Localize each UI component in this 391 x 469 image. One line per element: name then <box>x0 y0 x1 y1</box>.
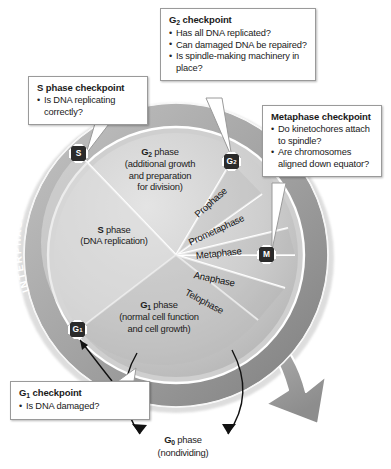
callout-g1-checkpoint: G1 checkpoint Is DNA damaged? <box>10 381 150 420</box>
phase-label-s: S phase (DNA replication) <box>58 224 170 247</box>
cell-cycle-figure: INTERPHASE CELL DIVISION Prophase Promet… <box>0 0 391 469</box>
badge-label: G1 <box>68 320 87 339</box>
phase-label-g2: G2 phase (additional growth and preparat… <box>108 146 212 193</box>
callout-item: Can damaged DNA be repaired? <box>169 40 308 52</box>
callout-list: Has all DNA replicated? Can damaged DNA … <box>169 28 308 74</box>
callout-title: S phase checkpoint <box>37 82 140 94</box>
callout-list: Do kinetochores attach to spindle? Are c… <box>271 124 374 170</box>
callout-item: Is spindle-making machinery in place? <box>169 51 308 74</box>
checkpoint-badge-s[interactable]: S <box>69 144 88 163</box>
callout-item: Has all DNA replicated? <box>169 28 308 40</box>
callout-list: Is DNA replicating correctly? <box>37 95 140 118</box>
callout-item: Are chromosomes aligned down equator? <box>271 147 374 170</box>
callout-metaphase-checkpoint: Metaphase checkpoint Do kinetochores att… <box>262 105 382 177</box>
callout-item: Is DNA replicating correctly? <box>37 95 140 118</box>
badge-label: S <box>69 144 88 163</box>
checkpoint-badge-g1[interactable]: G1 <box>68 320 87 339</box>
callout-item: Do kinetochores attach to spindle? <box>271 124 374 147</box>
phase-label-g0: G0 phase (nondividing) <box>128 434 238 458</box>
checkpoint-badge-m[interactable]: M <box>257 245 276 264</box>
callout-title: G2 checkpoint <box>169 14 308 27</box>
callout-list: Is DNA damaged? <box>19 401 142 413</box>
callout-title: Metaphase checkpoint <box>271 111 374 123</box>
checkpoint-badge-g2[interactable]: G2 <box>222 152 241 171</box>
callout-title: G1 checkpoint <box>19 387 142 400</box>
callout-g2-checkpoint: G2 checkpoint Has all DNA replicated? Ca… <box>160 8 316 81</box>
callout-item: Is DNA damaged? <box>19 401 142 413</box>
badge-label: G2 <box>222 152 241 171</box>
g0-arrowheads <box>132 424 236 434</box>
callout-s-phase-checkpoint: S phase checkpoint Is DNA replicating co… <box>28 76 148 125</box>
badge-label: M <box>257 245 276 264</box>
